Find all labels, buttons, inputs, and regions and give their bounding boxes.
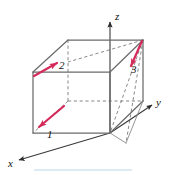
vector-1-label: 1: [47, 128, 53, 140]
edge-top-right-receding: [110, 40, 143, 72]
figure-container: z y x 1 2 3: [0, 0, 169, 175]
vector-2-arrow: [34, 63, 57, 76]
edge-bottom-front-spur: [110, 133, 126, 143]
vector-2-label: 2: [59, 59, 65, 71]
hidden-diagonal-front-bottom: [110, 40, 143, 133]
x-axis-line: [19, 133, 110, 160]
x-axis-label: x: [7, 157, 13, 169]
cube-vector-diagram: z y x 1 2 3: [0, 0, 169, 175]
vector-3-label: 3: [130, 63, 137, 75]
z-axis-label: z: [114, 10, 120, 22]
edge-bottom-spur-riser: [126, 101, 143, 143]
y-axis-label: y: [155, 96, 161, 108]
vector-1-arrow: [39, 106, 64, 127]
coordinate-axes: [19, 22, 152, 160]
vector-group: [34, 41, 142, 127]
y-axis-line: [110, 105, 152, 133]
edge-bottom-right-receding: [110, 101, 143, 133]
